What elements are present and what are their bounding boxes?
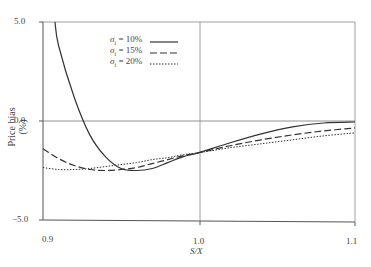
chart-plot-area bbox=[0, 0, 371, 267]
x-axis-title: S/X bbox=[190, 246, 203, 256]
x-axis bbox=[43, 220, 355, 222]
legend-item-20: σi = 20% bbox=[110, 58, 142, 69]
y-axis-title: Price bias (%) bbox=[6, 102, 28, 152]
y-tick-top: 5.0 bbox=[14, 16, 25, 26]
series-line-dotted bbox=[43, 133, 355, 170]
x-tick-left: 0.9 bbox=[42, 234, 53, 244]
y-tick-bottom: −5.0 bbox=[12, 214, 28, 224]
x-tick-mid: 1.0 bbox=[193, 236, 204, 246]
series-line-solid bbox=[55, 22, 355, 171]
legend: σi = 10% σi = 15% σi = 20% bbox=[110, 36, 142, 69]
x-tick-right: 1.1 bbox=[346, 236, 357, 246]
